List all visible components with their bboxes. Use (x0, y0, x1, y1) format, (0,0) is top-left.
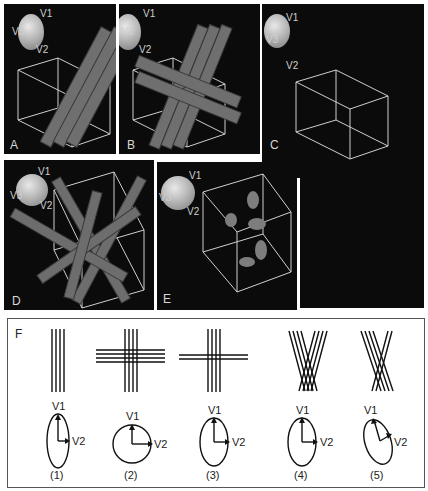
v1-label: V1 (38, 166, 50, 177)
schematic-1-v2: V2 (72, 435, 85, 447)
panel-label-d: D (12, 294, 21, 308)
schematic-3-v1: V1 (208, 404, 221, 416)
v2-label: V2 (36, 44, 48, 55)
panel-f: F (7, 318, 425, 488)
schematic-5-index: (5) (370, 469, 383, 481)
schematic-2-index: (2) (124, 469, 137, 481)
schematic-1-v1: V1 (52, 400, 65, 412)
v3-label: V3 (10, 190, 22, 201)
schematic-3-index: (3) (206, 469, 219, 481)
schematic-5-v2: V2 (394, 436, 407, 448)
schematic-4-v1: V1 (296, 404, 309, 416)
panel-c: V1 V3 V2 C (262, 4, 424, 178)
panel-c-extension (300, 178, 424, 308)
v3-label: V3 (159, 192, 171, 203)
schematic-2-v2: V2 (154, 438, 167, 450)
schematic-5-v1: V1 (364, 404, 377, 416)
v1-label: V1 (189, 170, 201, 181)
v3-label: V3 (266, 34, 278, 45)
panel-label-a: A (10, 138, 18, 152)
v3-label: V3 (12, 26, 24, 37)
schematic-4-index: (4) (294, 469, 307, 481)
v2-label: V2 (40, 200, 52, 211)
v1-label: V1 (40, 8, 52, 19)
panel-f-schematics (8, 319, 424, 487)
figure-top-section: V1 V3 V2 A V1 V3 V2 B (0, 0, 428, 314)
v2-label: V2 (139, 44, 151, 55)
schematic-1-index: (1) (50, 469, 63, 481)
panel-b: V1 V3 V2 B (119, 4, 260, 154)
panel-label-b: B (127, 138, 135, 152)
schematic-2-v1: V1 (126, 410, 139, 422)
v1-label: V1 (143, 8, 155, 19)
schematic-4-v2: V2 (320, 436, 333, 448)
v3-label: V3 (121, 26, 133, 37)
v2-label: V2 (187, 206, 199, 217)
panel-label-c: C (270, 138, 279, 152)
panel-d: V1 V3 V2 D (4, 160, 154, 310)
panel-a: V1 V3 V2 A (4, 4, 116, 154)
v1-label: V1 (286, 12, 298, 23)
panel-e: V1 V3 V2 E (157, 162, 297, 310)
v2-label: V2 (286, 60, 298, 71)
panel-label-e: E (163, 292, 171, 306)
schematic-3-v2: V2 (232, 436, 245, 448)
